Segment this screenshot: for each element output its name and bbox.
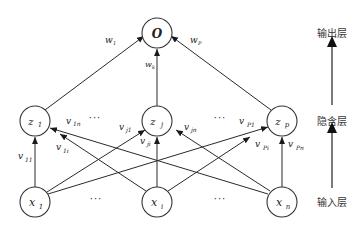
ellipsis-input-left: ··· (90, 193, 103, 204)
svg-text:x: x (29, 196, 36, 209)
svg-text:v: v (288, 139, 293, 149)
svg-text:x: x (276, 196, 283, 209)
ellipsis-hidden-right: ··· (214, 112, 227, 123)
edge-xi-z1 (60, 134, 146, 191)
svg-text:v: v (184, 122, 189, 132)
edge-xn-z1 (50, 128, 268, 194)
weight-v11: v 11 (18, 151, 33, 163)
weight-vpn: v Pn (288, 139, 304, 151)
svg-text:v: v (66, 116, 71, 126)
svg-text:11: 11 (25, 156, 33, 163)
svg-text:P1: P1 (246, 121, 255, 128)
svg-text:k: k (152, 64, 155, 70)
svg-text:1: 1 (38, 121, 42, 129)
svg-text:v: v (140, 136, 145, 146)
input-node-xi: x i (142, 187, 172, 217)
svg-text:v: v (119, 122, 124, 132)
svg-text:Pi: Pi (262, 144, 269, 151)
weight-w1: w 1 (105, 35, 116, 46)
svg-text:Pn: Pn (295, 144, 304, 151)
svg-text:jn: jn (189, 126, 197, 134)
layer-label-input: 输入层 (317, 196, 347, 208)
svg-text:i: i (161, 203, 163, 211)
layer-label-output: 输出层 (317, 27, 347, 39)
svg-text:1: 1 (39, 203, 43, 211)
svg-text:O: O (152, 27, 163, 41)
edge-z1-o (45, 36, 144, 110)
ellipsis-hidden-left: ··· (89, 112, 102, 123)
weight-vji: v ji (140, 136, 151, 148)
weight-vpi: v Pi (255, 139, 269, 151)
weight-vj1: v j1 (119, 122, 132, 134)
svg-text:x: x (151, 196, 158, 209)
weight-vjn: v jn (184, 122, 197, 134)
svg-text:ji: ji (145, 140, 151, 148)
input-node-xn: x n (267, 187, 297, 217)
edge-x1-zj (47, 130, 145, 192)
layer-label-hidden: 隐含层 (317, 115, 347, 127)
svg-text:v: v (18, 151, 23, 161)
weight-vp1: v P1 (239, 116, 255, 128)
ellipsis-input-right: ··· (214, 193, 227, 204)
input-to-hidden-edges (35, 127, 282, 194)
svg-text:z: z (274, 116, 281, 127)
svg-text:p: p (285, 121, 290, 129)
svg-text:w: w (190, 35, 198, 45)
svg-text:1n: 1n (73, 120, 81, 127)
hidden-node-z1: z 1 (20, 106, 50, 136)
weight-wp: w P (190, 35, 202, 46)
weight-v1i: v 1i (56, 142, 69, 154)
layer-legend: 输出层 隐含层 输入层 (317, 27, 347, 208)
weight-wk: w k (145, 60, 155, 70)
input-node-x1: x 1 (20, 187, 50, 217)
hidden-node-zp: z p (267, 106, 297, 136)
svg-text:j1: j1 (124, 126, 132, 134)
svg-text:1i: 1i (63, 147, 69, 154)
svg-text:1: 1 (113, 40, 116, 46)
hidden-node-zj: z j (142, 106, 172, 136)
network-diagram: O z 1 z j z p x 1 x i x n ··· ··· ··· ··… (0, 0, 364, 230)
svg-text:w: w (105, 35, 113, 45)
weight-v1n: v 1n (66, 116, 81, 127)
svg-text:w: w (145, 60, 152, 69)
svg-text:z: z (27, 116, 34, 127)
output-node: O (142, 18, 172, 48)
svg-text:n: n (286, 203, 291, 211)
edge-zp-o (171, 36, 271, 110)
svg-text:z: z (149, 116, 156, 127)
svg-text:v: v (56, 142, 61, 152)
svg-text:P: P (197, 40, 202, 46)
svg-text:v: v (239, 116, 244, 126)
svg-text:v: v (255, 139, 260, 149)
